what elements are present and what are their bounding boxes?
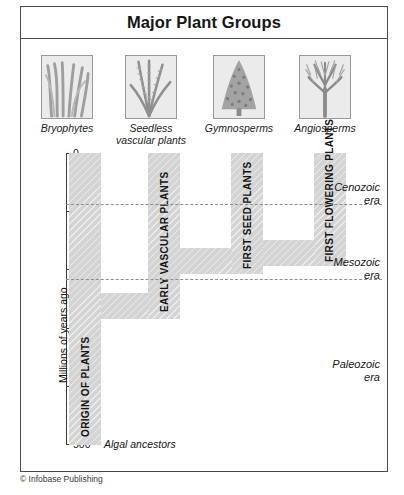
era-label-cenozoic: Cenozoic era bbox=[282, 181, 380, 206]
figure-frame: Major Plant Groups bbox=[20, 6, 388, 472]
annotation-algal-ancestors: Algal ancestors bbox=[104, 438, 176, 450]
era-label-paleozoic: Paleozoic era bbox=[282, 358, 380, 383]
connector-bryophytes-to-seedless bbox=[101, 293, 149, 319]
era-label-mesozoic: Mesozoic era bbox=[282, 256, 380, 281]
connector-seedless-to-gymnosperms bbox=[180, 248, 232, 274]
credit-line: © Infobase Publishing bbox=[20, 474, 103, 484]
bar-label-first-seed-plants: FIRST SEED PLANTS bbox=[242, 161, 253, 269]
y-axis-title: Millions of years ago bbox=[57, 287, 69, 383]
timeline-chart: 0 100 200 300 400 500 Millions of years … bbox=[21, 7, 389, 473]
bar-label-early-vascular-plants: EARLY VASCULAR PLANTS bbox=[159, 171, 170, 312]
figure-page: Major Plant Groups bbox=[0, 0, 404, 495]
bar-label-origin-of-plants: ORIGIN OF PLANTS bbox=[80, 336, 91, 437]
